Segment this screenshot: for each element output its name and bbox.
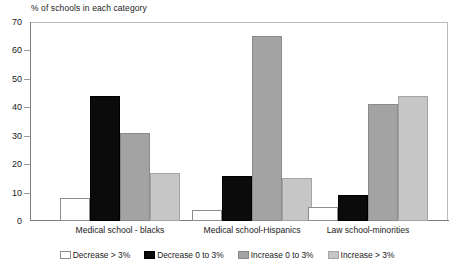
x-axis-label: Law school-minorities — [298, 225, 438, 236]
y-axis-label: 60 — [0, 46, 22, 55]
y-axis-label: 20 — [0, 160, 22, 169]
y-axis-tick — [24, 79, 31, 80]
y-axis-tick — [24, 50, 31, 51]
legend-label: Increase 0 to 3% — [251, 250, 314, 260]
y-axis-label: 70 — [0, 18, 22, 27]
x-axis-label: Medical school - blacks — [50, 225, 190, 236]
y-axis-label: 40 — [0, 103, 22, 112]
y-axis-label: 30 — [0, 132, 22, 141]
y-axis-line — [30, 22, 31, 221]
legend-label: Decrease 0 to 3% — [157, 250, 224, 260]
y-axis-tick — [24, 136, 31, 137]
legend-item[interactable]: Decrease > 3% — [60, 250, 131, 260]
legend-item[interactable]: Decrease 0 to 3% — [144, 250, 224, 260]
bar-chart: % of schools in each category 7060504030… — [0, 0, 454, 273]
y-axis-tick — [24, 164, 31, 165]
plot-area — [30, 22, 448, 221]
x-axis-line — [30, 220, 449, 221]
legend-swatch-icon — [144, 251, 155, 259]
legend-swatch-icon — [238, 251, 249, 259]
y-axis-tick — [24, 107, 31, 108]
legend-swatch-icon — [328, 251, 339, 259]
y-axis-label: 0 — [0, 217, 22, 226]
legend-label: Decrease > 3% — [73, 250, 131, 260]
y-axis-label: 10 — [0, 189, 22, 198]
y-axis-tick — [24, 193, 31, 194]
legend-swatch-icon — [60, 251, 71, 259]
legend-item[interactable]: Increase 0 to 3% — [238, 250, 314, 260]
y-axis-label: 50 — [0, 75, 22, 84]
chart-title: % of schools in each category — [31, 3, 147, 13]
legend-label: Increase > 3% — [341, 250, 395, 260]
chart-legend: Decrease > 3%Decrease 0 to 3%Increase 0 … — [0, 250, 454, 260]
legend-item[interactable]: Increase > 3% — [328, 250, 395, 260]
